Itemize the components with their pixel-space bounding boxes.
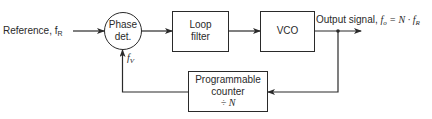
phase-detector-label: Phase det.	[104, 19, 142, 43]
reference-text: Reference, f	[3, 25, 57, 36]
phase-detector-line-2: det.	[104, 31, 142, 43]
phase-detector-line-1: Phase	[104, 19, 142, 31]
loop-filter-line-2: filter	[172, 31, 229, 43]
counter-line-3: ÷ N	[188, 97, 268, 109]
output-text: Output signal,	[316, 14, 380, 25]
counter-line-1: Programmable	[188, 74, 268, 86]
output-rhs: = N · f	[387, 14, 416, 25]
vco-text: VCO	[260, 25, 315, 37]
loop-filter-line-1: Loop	[172, 19, 229, 31]
vco-label: VCO	[260, 25, 315, 37]
reference-subscript: R	[57, 30, 62, 37]
counter-line-2: counter	[188, 86, 268, 98]
loop-filter-label: Loop filter	[172, 19, 229, 43]
pll-block-diagram: Reference, fR Phase det. Loop filter VCO…	[0, 0, 432, 119]
feedback-fv-label: fV	[127, 52, 134, 67]
output-rhs-sub: R	[415, 19, 419, 27]
fv-sub: V	[130, 57, 134, 65]
counter-label: Programmable counter ÷ N	[188, 74, 268, 109]
reference-label: Reference, fR	[3, 25, 63, 40]
output-label: Output signal, fo = N · fR	[316, 14, 420, 29]
